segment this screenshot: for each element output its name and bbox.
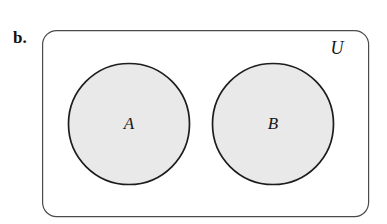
set-label-a: A (123, 114, 135, 133)
venn-diagram-figure: b. A B U (0, 0, 387, 224)
venn-canvas: A B U (0, 0, 387, 224)
universal-set-label: U (331, 38, 345, 58)
set-label-b: B (268, 114, 279, 133)
